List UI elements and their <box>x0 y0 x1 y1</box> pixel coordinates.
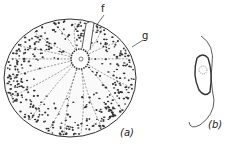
granule <box>113 108 116 109</box>
granule <box>122 65 125 67</box>
granule <box>30 103 32 104</box>
granule <box>127 55 129 57</box>
granule <box>57 26 59 28</box>
granule <box>50 47 52 49</box>
granule <box>119 111 122 113</box>
granule <box>92 71 94 73</box>
granule <box>123 73 126 75</box>
granule <box>32 106 35 108</box>
granule <box>54 31 56 33</box>
granule <box>40 48 43 50</box>
granule <box>34 47 36 49</box>
granule <box>120 50 122 52</box>
granule <box>42 56 44 58</box>
granule <box>34 36 37 37</box>
granule <box>10 84 13 85</box>
granule <box>68 128 71 130</box>
granule <box>39 114 41 116</box>
granule <box>107 101 110 103</box>
granule <box>110 63 112 65</box>
granule <box>24 41 26 43</box>
granule <box>106 39 108 41</box>
granule <box>102 119 104 120</box>
granule <box>33 90 36 92</box>
granule <box>73 134 75 136</box>
panel-b-cell <box>189 36 214 127</box>
granule <box>112 106 115 107</box>
granule <box>71 127 73 129</box>
granule <box>114 46 116 48</box>
granule <box>101 63 103 65</box>
granule <box>12 101 14 103</box>
granule <box>52 29 54 31</box>
granule <box>86 125 88 126</box>
granule <box>106 47 108 48</box>
granule <box>77 127 79 129</box>
granule <box>126 89 128 91</box>
figure-illustration <box>0 0 229 149</box>
granule <box>128 59 130 61</box>
granule <box>104 43 106 45</box>
granule <box>20 78 22 80</box>
granule <box>47 128 49 130</box>
granule <box>47 114 49 116</box>
granule <box>44 121 46 122</box>
granule <box>18 55 20 57</box>
granule <box>78 37 81 39</box>
granule <box>75 28 77 30</box>
granule <box>37 119 39 121</box>
granule <box>58 113 60 115</box>
granule <box>35 41 38 43</box>
granule <box>107 119 109 120</box>
granule <box>96 72 98 74</box>
granule <box>77 124 80 126</box>
granule <box>7 67 9 69</box>
granule <box>75 133 77 135</box>
granule <box>125 65 127 67</box>
leader-line-f <box>96 15 104 26</box>
granule <box>113 87 116 88</box>
granule <box>123 62 126 63</box>
granule <box>80 40 82 41</box>
granule <box>35 107 37 109</box>
granule <box>100 120 102 122</box>
granule <box>100 127 102 129</box>
granule <box>29 45 31 47</box>
granule <box>96 119 98 120</box>
granule <box>16 95 18 97</box>
granule <box>107 71 110 72</box>
granule <box>52 121 55 123</box>
granule <box>89 118 91 120</box>
granule <box>45 95 48 96</box>
granule <box>77 26 79 27</box>
granule <box>69 116 71 118</box>
granule <box>51 124 53 126</box>
granule <box>95 92 98 94</box>
granule <box>40 53 42 55</box>
granule <box>117 40 119 42</box>
granule <box>62 51 65 53</box>
granule <box>95 74 97 76</box>
granule <box>112 115 114 117</box>
granule <box>78 133 80 135</box>
granule <box>68 126 70 128</box>
granule <box>63 21 65 22</box>
granule <box>26 80 28 82</box>
granule <box>64 38 66 40</box>
granule <box>99 31 101 33</box>
granule <box>31 37 33 39</box>
granule <box>98 98 101 100</box>
granule <box>83 107 86 109</box>
granule <box>25 89 28 91</box>
granule <box>9 65 12 67</box>
granule <box>9 75 11 77</box>
granule <box>103 29 105 31</box>
granule <box>104 106 107 108</box>
granule <box>61 130 64 132</box>
granule <box>32 53 34 54</box>
granule <box>121 109 124 111</box>
granule <box>102 125 105 127</box>
granule <box>37 36 40 38</box>
granule <box>57 58 59 60</box>
granule <box>66 105 69 107</box>
